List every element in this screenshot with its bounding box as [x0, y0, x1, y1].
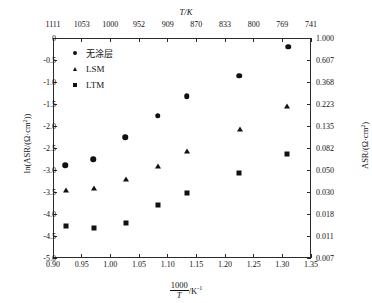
- data-point-circle: [90, 156, 96, 162]
- y-axis-tick-right: [307, 236, 311, 237]
- y-axis-tick-label-right: 0.607: [316, 56, 334, 65]
- data-point-triangle: [63, 187, 69, 192]
- y-axis-title-right: ASR/(Ω·cm2): [360, 80, 371, 210]
- data-point-square: [285, 152, 290, 157]
- legend-marker-circle-icon: [68, 51, 82, 56]
- y-axis-tick-label-left: 0: [52, 34, 56, 43]
- legend-item-label: 无涂层: [86, 47, 113, 60]
- top-axis-title: T/K: [0, 7, 372, 17]
- y-axis-tick-right: [307, 170, 311, 171]
- y-axis-tick-label-left: -4.5: [43, 232, 56, 241]
- x-axis-title-denominator: T: [170, 291, 189, 300]
- y-axis-tick-right: [307, 104, 311, 105]
- y-axis-tick-right: [307, 148, 311, 149]
- top-axis-tick-label: 909: [162, 20, 174, 29]
- top-axis-tick: [81, 38, 82, 42]
- data-point-square: [92, 226, 97, 231]
- data-point-square: [237, 171, 242, 176]
- y-axis-title-right-sup: 2: [360, 125, 366, 128]
- y-axis-tick-label-right: 1.000: [316, 34, 334, 43]
- top-axis-tick-label: 952: [133, 20, 145, 29]
- x-axis-tick-label: 1.15: [189, 260, 203, 269]
- top-axis-tick: [167, 38, 168, 42]
- legend-item[interactable]: LTM: [68, 77, 113, 93]
- y-axis-tick-label-left: -3.5: [43, 188, 56, 197]
- x-axis-tick-label: 0.95: [75, 260, 89, 269]
- top-axis-tick: [110, 38, 111, 42]
- y-axis-tick-right: [307, 38, 311, 39]
- y-axis-tick-right: [307, 60, 311, 61]
- y-axis-tick-label-left: -3.0: [43, 166, 56, 175]
- data-point-square: [184, 190, 189, 195]
- data-point-triangle: [155, 164, 161, 169]
- y-axis-tick-label-right: 0.050: [316, 166, 334, 175]
- y-axis-tick-label-right: 0.368: [316, 78, 334, 87]
- y-axis-title-right-pre: ASR/(Ω·cm: [360, 128, 370, 169]
- legend-item[interactable]: 无涂层: [68, 45, 113, 61]
- y-axis-tick-label-right: 0.007: [316, 254, 334, 263]
- x-axis-tick-label: 1.30: [275, 260, 289, 269]
- y-axis-tick-label-right: 0.082: [316, 144, 334, 153]
- x-axis-tick: [282, 254, 283, 258]
- legend-item-label: LTM: [86, 80, 104, 90]
- y-axis-tick-label-left: -2.0: [43, 122, 56, 131]
- x-axis-tick-label: 1.20: [218, 260, 232, 269]
- data-point-square: [123, 220, 128, 225]
- x-axis-tick: [81, 254, 82, 258]
- y-axis-tick-right: [307, 82, 311, 83]
- y-axis-title-left-pre: ln(ASR/(Ω·cm: [22, 122, 32, 173]
- top-axis-tick-label: 1111: [45, 20, 60, 29]
- square-icon: [73, 83, 77, 87]
- chart-figure: T/K 0.900.951.001.051.101.151.201.251.30…: [0, 0, 372, 303]
- x-axis-tick: [225, 254, 226, 258]
- y-axis-tick-right: [307, 192, 311, 193]
- x-axis-tick: [253, 254, 254, 258]
- y-axis-tick-label-right: 0.030: [316, 188, 334, 197]
- data-point-circle: [122, 134, 128, 140]
- y-axis-tick-right: [307, 258, 311, 259]
- data-point-triangle: [91, 186, 97, 191]
- top-axis-tick-label: 1053: [74, 20, 90, 29]
- x-axis-tick: [139, 254, 140, 258]
- y-axis-tick-label-right: 0.223: [316, 100, 334, 109]
- x-axis-tick-label: 1.10: [161, 260, 175, 269]
- y-axis-tick-label-left: -1.5: [43, 100, 56, 109]
- x-axis-tick: [167, 254, 168, 258]
- data-point-triangle: [123, 176, 129, 181]
- top-axis-tick: [311, 38, 312, 42]
- top-axis-tick: [225, 38, 226, 42]
- legend-item-label: LSM: [86, 64, 105, 74]
- y-axis-tick-right: [307, 126, 311, 127]
- y-axis-tick-right: [307, 214, 311, 215]
- y-axis-tick-label-left: -1.0: [43, 78, 56, 87]
- data-point-triangle: [237, 127, 243, 132]
- y-axis-title-left: ln(ASR/(Ω·cm2)): [22, 63, 33, 223]
- x-axis-title: 1000T/K-1: [0, 281, 372, 299]
- top-axis-tick-label: 800: [248, 20, 260, 29]
- top-axis-tick-label: 769: [276, 20, 288, 29]
- data-point-circle: [62, 162, 68, 168]
- triangle-icon: [73, 67, 77, 71]
- top-axis-tick-label: 741: [305, 20, 317, 29]
- x-axis-tick-label: 1.25: [247, 260, 261, 269]
- data-point-triangle: [284, 104, 290, 109]
- x-axis-title-unit: /K-1: [189, 286, 203, 296]
- top-axis-tick: [196, 38, 197, 42]
- y-axis-tick-label-left: -5.0: [43, 254, 56, 263]
- data-point-circle: [155, 113, 161, 119]
- data-point-circle: [184, 93, 190, 99]
- y-axis-title-left-post: )): [22, 114, 32, 120]
- top-axis-tick: [253, 38, 254, 42]
- circle-icon: [73, 51, 78, 56]
- y-axis-tick-label-right: 0.135: [316, 122, 334, 131]
- top-axis-tick-label: 1000: [102, 20, 118, 29]
- x-axis-tick-label: 1.00: [103, 260, 117, 269]
- y-axis-tick-label-left: -4.0: [43, 210, 56, 219]
- top-axis-tick: [282, 38, 283, 42]
- y-axis-tick-label-right: 0.011: [316, 232, 334, 241]
- x-axis-title-fraction: 1000T: [170, 281, 189, 299]
- legend-item[interactable]: LSM: [68, 61, 113, 77]
- top-axis-tick-label: 870: [190, 20, 202, 29]
- legend-marker-triangle-icon: [68, 67, 82, 71]
- y-axis-tick-label-left: -0.5: [43, 56, 56, 65]
